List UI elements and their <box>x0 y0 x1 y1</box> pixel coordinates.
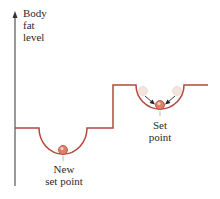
new-set-point-label-line: set point <box>34 175 94 187</box>
y-axis <box>13 11 18 186</box>
set-point-ball <box>156 101 165 117</box>
ghost-ball-right <box>173 87 182 96</box>
new-set-point-ball <box>59 146 68 162</box>
set-point-label-line: point <box>140 131 180 143</box>
axis-arrow-icon <box>13 11 18 18</box>
new-set-point-label: New set point <box>34 163 94 187</box>
y-axis-label-line: fat <box>23 19 47 31</box>
set-point-label-line: Set <box>140 119 180 131</box>
y-axis-label: Body fat level <box>23 7 47 43</box>
arrow-left-icon <box>145 96 155 105</box>
ghost-ball-left <box>139 87 148 96</box>
new-set-point-label-line: New <box>34 163 94 175</box>
set-point-label: Set point <box>140 119 180 143</box>
y-axis-label-line: level <box>23 31 47 43</box>
arrow-right-icon <box>165 96 175 105</box>
y-axis-label-line: Body <box>23 7 47 19</box>
